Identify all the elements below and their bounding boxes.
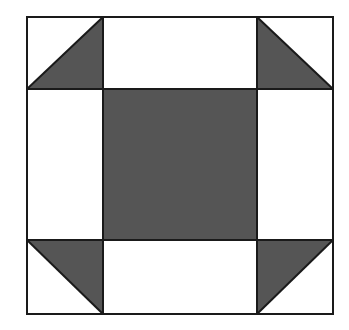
quilt-block-diagram (0, 0, 349, 330)
center-square (103, 89, 257, 240)
